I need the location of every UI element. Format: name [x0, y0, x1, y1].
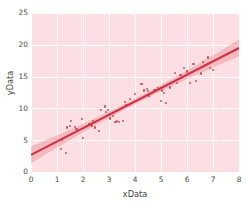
plot-area: [31, 13, 239, 172]
scatter-point: [118, 121, 120, 123]
scatter-point: [163, 92, 165, 94]
scatter-point: [169, 86, 171, 88]
x-tick-label: 4: [126, 176, 144, 183]
scatter-point: [75, 128, 77, 130]
x-tick-label: 0: [22, 176, 40, 183]
x-tick-label: 2: [74, 176, 92, 183]
x-tick-label: 5: [152, 176, 170, 183]
scatter-point: [195, 80, 197, 82]
scatter-point: [69, 125, 71, 127]
x-tick-label: 3: [100, 176, 118, 183]
scatter-point: [147, 90, 149, 92]
x-tick-label: 8: [230, 176, 247, 183]
y-tick-label: 5: [2, 137, 28, 144]
scatter-point: [186, 70, 188, 72]
scatter-point: [100, 109, 102, 111]
scatter-point: [192, 63, 194, 65]
scatter-point: [200, 72, 202, 74]
y-tick-label: 20: [2, 41, 28, 48]
y-axis-label: yData: [5, 53, 15, 113]
scatter-point: [105, 111, 107, 113]
x-tick-label: 6: [178, 176, 196, 183]
scatter-point: [81, 118, 83, 120]
scatter-point: [82, 137, 84, 139]
scatter-point: [165, 102, 167, 104]
scatter-point: [60, 148, 62, 150]
scatter-point: [122, 120, 124, 122]
scatter-point: [143, 89, 145, 91]
scatter-point: [66, 126, 68, 128]
scatter-point: [125, 104, 127, 106]
x-tick-label: 1: [48, 176, 66, 183]
scatter-point: [179, 74, 181, 76]
scatter-point: [107, 109, 109, 111]
scatter-point: [129, 98, 131, 100]
scatter-point: [65, 152, 67, 154]
scatter-point: [112, 115, 114, 117]
scatter-point: [108, 114, 110, 116]
scatter-point: [134, 93, 136, 95]
scatter-point: [98, 130, 100, 132]
scatter-point: [202, 61, 204, 63]
scatter-point: [104, 105, 106, 107]
scatter-point: [148, 95, 150, 97]
scatter-points: [31, 13, 239, 172]
scatter-point: [212, 69, 214, 71]
scatter-point: [94, 126, 96, 128]
scatter-point: [183, 67, 185, 69]
scatter-point: [61, 139, 63, 141]
scatter-point: [92, 120, 94, 122]
scatter-point: [140, 83, 142, 85]
scatter-point: [207, 56, 209, 58]
x-axis-ticks: 012345678: [0, 176, 247, 188]
scatter-point: [124, 101, 126, 103]
scatter-point: [160, 100, 162, 102]
scatter-point: [109, 117, 111, 119]
scatter-point: [157, 87, 159, 89]
scatter-point: [174, 72, 176, 74]
scatter-point: [176, 82, 178, 84]
x-axis-label: xData: [31, 189, 239, 199]
y-tick-label: 25: [2, 9, 28, 16]
scatter-point: [189, 82, 191, 84]
scatter-point: [153, 89, 155, 91]
scatter-point: [70, 120, 72, 122]
y-tick-label: 0: [2, 168, 28, 175]
chart-figure: 0510152025 012345678 xData yData: [0, 0, 247, 204]
scatter-point: [91, 125, 93, 127]
x-tick-label: 7: [204, 176, 222, 183]
